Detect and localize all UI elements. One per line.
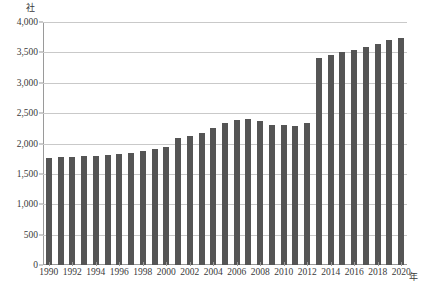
bar <box>398 38 404 265</box>
x-tick-label: 1994 <box>86 267 105 278</box>
bar <box>81 156 87 265</box>
bar <box>210 128 216 265</box>
y-tick-label: 2,500 <box>17 108 38 118</box>
x-tick-label: 2012 <box>298 267 317 278</box>
x-tick-label: 2010 <box>274 267 293 278</box>
x-tick-label: 2014 <box>321 267 340 278</box>
x-tick-mark <box>378 262 379 266</box>
bar <box>163 147 169 265</box>
x-tick-mark <box>96 262 97 266</box>
y-tick-label: 1,500 <box>17 169 38 179</box>
bar <box>222 123 228 265</box>
y-tick-label: 1,000 <box>17 199 38 209</box>
y-tick-label: 0 <box>33 260 38 270</box>
plot-area: 05001,0001,5002,0002,5003,0003,5004,000 <box>43 22 407 265</box>
x-tick-mark <box>166 262 167 266</box>
bar <box>199 133 205 265</box>
x-tick-label: 2006 <box>227 267 246 278</box>
x-tick-label: 1992 <box>63 267 82 278</box>
x-tick-label: 2008 <box>251 267 270 278</box>
y-tick-label: 4,000 <box>17 17 38 27</box>
x-tick-mark <box>143 262 144 266</box>
x-tick-mark <box>331 262 332 266</box>
x-tick-mark <box>190 262 191 266</box>
x-tick-mark <box>213 262 214 266</box>
x-tick-label: 2002 <box>180 267 199 278</box>
bar <box>69 157 75 265</box>
x-tick-mark <box>401 262 402 266</box>
y-tick-label: 3,500 <box>17 47 38 57</box>
x-tick-mark <box>237 262 238 266</box>
bar <box>128 153 134 265</box>
bar <box>93 156 99 265</box>
y-tick-label: 500 <box>24 230 38 240</box>
x-tick-mark <box>260 262 261 266</box>
bar <box>152 149 158 265</box>
bar <box>292 126 298 265</box>
bar-series <box>43 22 407 265</box>
y-axis-unit-label: 社 <box>26 3 35 13</box>
bar <box>304 123 310 265</box>
bar <box>386 40 392 265</box>
bar <box>375 44 381 265</box>
bar <box>105 155 111 265</box>
bar <box>140 151 146 265</box>
x-tick-mark <box>284 262 285 266</box>
bar <box>363 47 369 265</box>
x-tick-label: 2000 <box>157 267 176 278</box>
bar <box>116 154 122 265</box>
bar <box>58 157 64 265</box>
bar <box>328 55 334 265</box>
y-tick-label: 2,000 <box>17 139 38 149</box>
bar <box>339 52 345 265</box>
y-tick-label: 3,000 <box>17 78 38 88</box>
x-tick-label: 1996 <box>110 267 129 278</box>
x-tick-mark <box>119 262 120 266</box>
bar <box>257 121 263 265</box>
bar <box>245 119 251 265</box>
x-tick-label: 2020 <box>392 267 411 278</box>
x-tick-label: 1990 <box>39 267 58 278</box>
x-tick-mark <box>354 262 355 266</box>
x-tick-label: 2018 <box>368 267 387 278</box>
bar <box>187 136 193 265</box>
bar <box>316 58 322 265</box>
x-tick-mark <box>72 262 73 266</box>
bar <box>269 125 275 265</box>
bar <box>351 50 357 265</box>
bar <box>46 158 52 265</box>
bar <box>281 125 287 265</box>
bar <box>175 138 181 265</box>
x-tick-label: 2004 <box>204 267 223 278</box>
x-tick-label: 1998 <box>133 267 152 278</box>
bar <box>234 120 240 265</box>
x-tick-mark <box>307 262 308 266</box>
bar-chart-figure: 社 年 05001,0001,5002,0002,5003,0003,5004,… <box>0 0 426 288</box>
x-axis-tick-labels: 1990199219941996199820002002200420062008… <box>43 267 407 283</box>
x-tick-mark <box>49 262 50 266</box>
x-tick-label: 2016 <box>345 267 364 278</box>
